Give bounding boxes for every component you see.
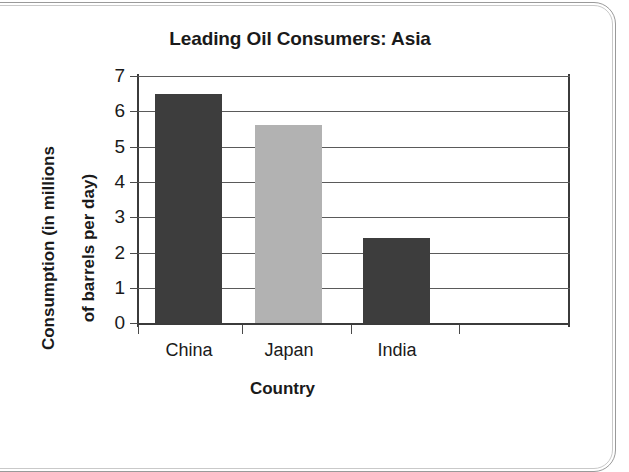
bar-japan[interactable]: [255, 125, 322, 323]
x-tick-label-india: India: [337, 340, 457, 361]
y-tick-label-2: 2: [97, 243, 125, 262]
gridline-7: [137, 76, 570, 77]
y-tick-label-3: 3: [97, 207, 125, 226]
y-tick-mark-3: [130, 217, 138, 218]
y-tick-mark-0: [130, 323, 138, 324]
y-tick-mark-6: [130, 111, 138, 112]
x-tick-mark-1: [242, 325, 243, 334]
y-tick-mark-5: [130, 147, 138, 148]
chart-title: Leading Oil Consumers: Asia: [0, 28, 600, 50]
y-tick-mark-7: [130, 76, 138, 77]
y-tick-mark-2: [130, 253, 138, 254]
y-tick-mark-1: [130, 288, 138, 289]
y-tick-label-1: 1: [97, 278, 125, 297]
x-axis-line: [137, 323, 570, 325]
y-tick-mark-4: [130, 182, 138, 183]
x-tick-mark-0: [138, 325, 139, 334]
x-axis-title: Country: [140, 379, 425, 399]
y-tick-label-5: 5: [97, 137, 125, 156]
plot-area: 7 6 5 4 3 2 1 0 China Japan India: [137, 76, 570, 325]
y-tick-label-7: 7: [97, 66, 125, 85]
y-tick-label-6: 6: [97, 101, 125, 120]
x-tick-mark-3: [459, 325, 460, 334]
x-tick-mark-2: [351, 325, 352, 334]
y-tick-label-0: 0: [97, 313, 125, 332]
y-axis-title-line-1: Consumption (in millions: [39, 113, 59, 383]
x-tick-label-japan: Japan: [229, 340, 349, 361]
bar-china[interactable]: [155, 94, 222, 323]
y-tick-label-4: 4: [97, 172, 125, 191]
bar-india[interactable]: [363, 238, 430, 323]
